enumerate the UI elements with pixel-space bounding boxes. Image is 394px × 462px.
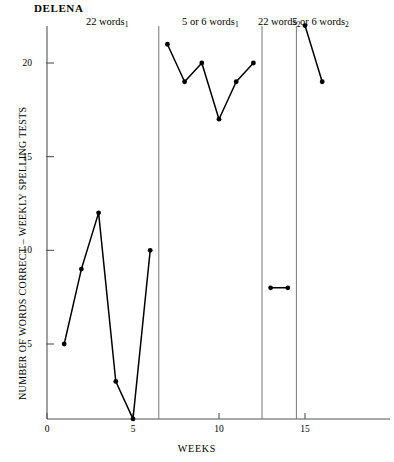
data-point-marker (234, 79, 239, 84)
data-point-marker (268, 285, 273, 290)
data-point-marker (303, 23, 308, 28)
plot-area (0, 0, 394, 462)
data-line-phase-2 (167, 44, 253, 119)
data-point-marker (96, 210, 101, 215)
data-point-marker (79, 267, 84, 272)
spelling-tests-line-chart: DELENA 22 words1 5 or 6 words1 22 words2… (0, 0, 394, 462)
data-point-marker (113, 379, 118, 384)
data-point-marker (148, 248, 153, 253)
data-point-marker (199, 61, 204, 66)
data-point-marker (182, 79, 187, 84)
data-point-marker (131, 417, 136, 422)
data-line-phase-1 (64, 213, 150, 419)
data-point-marker (165, 42, 170, 47)
data-point-marker (285, 285, 290, 290)
data-line-phase-4 (305, 26, 322, 82)
data-point-marker (251, 61, 256, 66)
data-point-marker (217, 117, 222, 122)
data-point-marker (62, 342, 67, 347)
data-point-marker (320, 79, 325, 84)
